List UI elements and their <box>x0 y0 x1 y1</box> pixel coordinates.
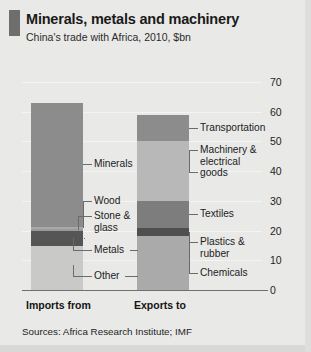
bottom-edge <box>0 345 311 352</box>
ytick-50: 50 <box>270 135 282 147</box>
segment-metals <box>31 231 83 246</box>
label-wood: Wood <box>94 195 120 207</box>
chart-figure: Minerals, metals and machinery China's t… <box>0 0 311 352</box>
leader-machinery-a <box>189 172 198 173</box>
label-minerals: Minerals <box>94 158 133 170</box>
ytick-60: 60 <box>270 106 282 118</box>
leader-metals-b <box>84 238 85 239</box>
label-chemicals: Chemicals <box>200 267 248 279</box>
leader-metals-h <box>73 250 92 251</box>
ytick-40: 40 <box>270 165 282 177</box>
ytick-20: 20 <box>270 225 282 237</box>
leader-other-v <box>73 265 74 277</box>
label-metals: Metals <box>94 244 124 256</box>
segment-chemicals <box>137 236 189 290</box>
leader-transportation <box>189 128 198 129</box>
ytick-0: 0 <box>270 284 276 296</box>
leader-machinery-h <box>189 150 198 151</box>
label-other: Other <box>94 270 119 282</box>
leader-stone-h <box>78 216 92 217</box>
leader-chemicals-v <box>189 233 190 273</box>
segment-minerals <box>31 103 83 227</box>
leader-metals-right <box>130 250 138 251</box>
ytick-30: 30 <box>270 195 282 207</box>
axis-baseline <box>22 290 268 291</box>
plot-area: 70 60 50 40 30 20 10 0 Minerals <box>0 0 311 352</box>
segment-other <box>31 246 83 290</box>
axis-label-imports: Imports from <box>26 299 91 311</box>
segment-plastics <box>137 228 189 236</box>
gridline-70 <box>22 82 262 83</box>
ytick-70: 70 <box>270 76 282 88</box>
leader-wood-v <box>83 201 84 228</box>
label-stone-glass: Stone & glass <box>94 210 130 233</box>
leader-machinery-v <box>189 150 190 173</box>
leader-other-right <box>125 276 138 277</box>
leader-chemicals-h <box>189 273 198 274</box>
source-note: Sources: Africa Research Institute; IMF <box>22 326 192 337</box>
segment-textiles <box>137 201 189 228</box>
leader-wood-h <box>83 201 92 202</box>
leader-textiles <box>189 214 198 215</box>
leader-other-h <box>73 276 92 277</box>
label-textiles: Textiles <box>200 208 234 220</box>
leader-metals-v <box>73 238 74 250</box>
bar-exports <box>137 115 189 290</box>
ytick-10: 10 <box>270 254 282 266</box>
leader-stone-v <box>78 216 79 230</box>
leader-minerals <box>83 164 92 165</box>
label-transportation: Transportation <box>200 122 265 134</box>
segment-machinery <box>137 141 189 201</box>
right-edge <box>305 0 311 352</box>
segment-transportation <box>137 115 189 141</box>
label-plastics: Plastics & rubber <box>200 236 245 259</box>
axis-label-exports: Exports to <box>134 299 186 311</box>
bar-imports <box>31 103 83 290</box>
leader-plastics-h <box>189 242 198 243</box>
label-machinery: Machinery & electrical goods <box>200 144 257 179</box>
